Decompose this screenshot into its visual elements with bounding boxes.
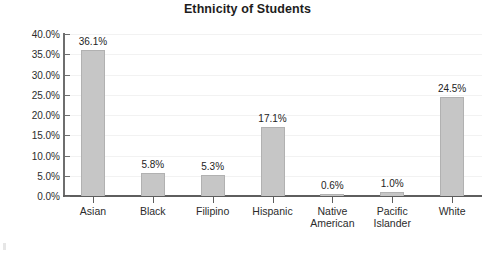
x-axis-tick-mark [273,197,274,203]
bar-data-label: 36.1% [79,36,107,47]
bar-chart: Ethnicity of Students 0.0%5.0%10.0%15.0%… [0,0,495,253]
gridline [63,95,482,96]
bar-data-label: 1.0% [381,178,404,189]
bar-data-label: 5.8% [141,159,164,170]
x-axis-category-label: PacificIslander [374,205,411,229]
category-label-line: Pacific [374,205,411,217]
x-axis-category-label: NativeAmerican [310,205,354,229]
y-axis-tick-label: 0.0% [4,191,60,202]
scan-artifact [3,243,6,250]
category-label-line: Filipino [196,205,229,217]
y-axis-tick-mark [65,54,70,55]
y-axis-tick-mark [65,34,70,35]
x-axis-tick-mark [93,197,94,203]
y-axis-tick-label: 35.0% [4,49,60,60]
category-label-line: Native [310,205,354,217]
y-axis-tick-mark [65,176,70,177]
y-axis-tick-label: 15.0% [4,130,60,141]
bar [141,173,165,196]
x-axis-tick-mark [332,197,333,203]
category-label-line: American [310,217,354,229]
y-axis-tick-mark [65,95,70,96]
y-axis-tick-mark [65,115,70,116]
y-axis-tick-label: 10.0% [4,150,60,161]
y-axis-tick-labels: 0.0%5.0%10.0%15.0%20.0%25.0%30.0%35.0%40… [0,0,60,253]
y-axis-tick-mark [65,75,70,76]
x-axis-tick-mark [213,197,214,203]
gridline [63,75,482,76]
bar-data-label: 5.3% [201,161,224,172]
x-axis-category-label: Asian [80,205,106,217]
category-label-line: Asian [80,205,106,217]
bar-data-label: 17.1% [258,113,286,124]
bar [81,50,105,196]
chart-title: Ethnicity of Students [0,2,495,16]
x-axis-tick-mark [153,197,154,203]
x-axis-category-label: Filipino [196,205,229,217]
category-label-line: Islander [374,217,411,229]
bar [261,127,285,196]
category-label-line: White [439,205,466,217]
y-axis-tick-label: 30.0% [4,69,60,80]
bar [320,194,344,196]
y-axis-tick-mark [65,135,70,136]
category-label-line: Hispanic [252,205,292,217]
y-axis-tick-mark [65,156,70,157]
gridline [63,54,482,55]
x-axis-category-label: White [439,205,466,217]
y-axis-tick-label: 40.0% [4,29,60,40]
x-axis-category-label: Black [140,205,166,217]
x-axis-tick-mark [452,197,453,203]
category-label-line: Black [140,205,166,217]
y-axis-tick-label: 20.0% [4,110,60,121]
bar [440,97,464,196]
bar [380,192,404,196]
x-axis-tick-mark [392,197,393,203]
y-axis-tick-label: 25.0% [4,89,60,100]
bar-data-label: 0.6% [321,180,344,191]
bar [201,175,225,196]
y-axis-tick-mark [65,196,70,197]
gridline [63,34,482,35]
x-axis-category-label: Hispanic [252,205,292,217]
y-axis-tick-label: 5.0% [4,170,60,181]
bar-data-label: 24.5% [438,83,466,94]
